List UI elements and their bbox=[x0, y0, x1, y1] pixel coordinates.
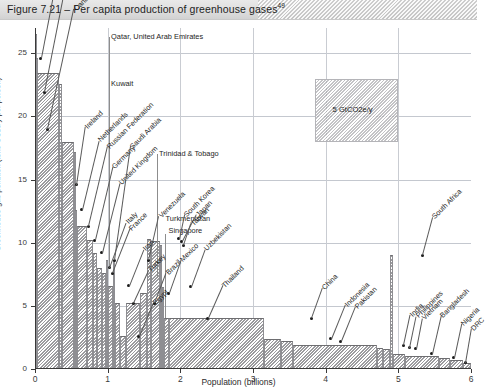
x-axis-tick bbox=[108, 369, 109, 373]
y-axis-tick bbox=[31, 116, 35, 117]
bar-south-africa bbox=[390, 255, 394, 369]
chart-plot-area: 051015202501234565 GtCO2e/yQatar, United… bbox=[35, 28, 471, 369]
y-axis-tick bbox=[31, 243, 35, 244]
bar-other-high-emitters bbox=[62, 142, 74, 369]
bar-india bbox=[293, 345, 377, 369]
title-hatch-decoration bbox=[258, 0, 477, 19]
plain-label-qatar-united-arab-emirates: Qatar, United Arab Emirates bbox=[111, 32, 203, 41]
label-connector-line bbox=[109, 84, 110, 256]
x-axis-tick bbox=[398, 369, 399, 373]
plain-label-trinidad-tobago: Trinidad & Tobago bbox=[159, 149, 219, 158]
figure-footnote-marker: 49 bbox=[278, 2, 285, 9]
bar-indonesia bbox=[264, 339, 281, 369]
y-axis-tick-label: 0 bbox=[5, 364, 27, 373]
bar-pakistan bbox=[281, 341, 293, 369]
x-axis-tick bbox=[180, 369, 181, 373]
y-axis-tick-label: 10 bbox=[5, 238, 27, 247]
x-axis-tick bbox=[35, 369, 36, 373]
bar-bangladesh bbox=[393, 354, 404, 369]
y-axis-tick bbox=[31, 53, 35, 54]
bar-china bbox=[169, 318, 265, 369]
x-gridline bbox=[398, 28, 399, 369]
y-axis-tick bbox=[31, 306, 35, 307]
annotation-box-label: 5 GtCO2e/y bbox=[333, 105, 373, 114]
bar-russian-federation bbox=[77, 226, 87, 369]
y-axis-title: Greenhouse-gas pollution (tons CO2e/y pe… bbox=[0, 0, 2, 330]
y-axis-tick-label: 5 bbox=[5, 301, 27, 310]
y-axis-tick-label: 15 bbox=[5, 175, 27, 184]
chart-canvas bbox=[35, 28, 471, 369]
y-axis-line bbox=[35, 28, 36, 369]
y-axis-tick-label: 20 bbox=[5, 111, 27, 120]
x-axis-tick bbox=[471, 369, 472, 373]
x-axis-tick bbox=[253, 369, 254, 373]
x-axis-tick bbox=[326, 369, 327, 373]
figure-title-text: Figure 7.21 – Per capita production of g… bbox=[7, 3, 278, 15]
y-axis-tick bbox=[31, 180, 35, 181]
plain-label-kuwait: Kuwait bbox=[111, 79, 133, 88]
x-axis-title: Population (billions) bbox=[0, 377, 477, 387]
y-axis-tick-label: 25 bbox=[5, 48, 27, 57]
